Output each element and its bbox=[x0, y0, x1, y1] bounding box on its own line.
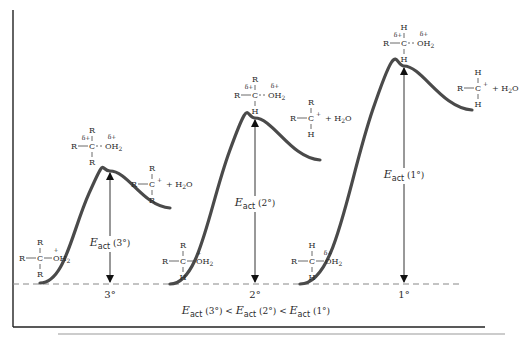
partial-charge-carbon: δ+ bbox=[394, 31, 403, 38]
energy-diagram: Eact (3°)3°CRRROH2+CRRROH2δ+δ+CRRR++ H2O… bbox=[0, 0, 519, 343]
reactant-top-substituent: R bbox=[37, 238, 44, 247]
transition-state-carbon: C bbox=[252, 91, 258, 100]
water-leaving-group: OH2 bbox=[417, 39, 435, 49]
partial-charge-oxygen: δ+ bbox=[271, 82, 280, 89]
water-leaving-group: OH2 bbox=[53, 254, 71, 264]
reactant-left-substituent: R bbox=[19, 254, 26, 263]
substrate-class-label: 3° bbox=[104, 289, 115, 300]
product-carbon: C bbox=[475, 84, 481, 93]
product-carbon: C bbox=[149, 180, 155, 189]
partial-charge-carbon: δ+ bbox=[245, 83, 254, 90]
substrate-class-label: 2° bbox=[249, 289, 260, 300]
reactant-bottom-substituent: H bbox=[180, 273, 187, 282]
oxonium-charge: δ+ bbox=[324, 249, 333, 256]
product-top-substituent: H bbox=[475, 68, 482, 77]
product-left-substituent: R bbox=[131, 180, 138, 189]
substrate-class-label: 1° bbox=[398, 289, 409, 300]
profile-tertiary: Eact (3°)3°CRRROH2+CRRROH2δ+δ+CRRR++ H2O bbox=[19, 126, 193, 300]
carbocation-product-structure: CRHR++ H2O bbox=[290, 98, 352, 139]
reactant-carbon: C bbox=[180, 257, 186, 266]
transition-state-structure: CRRROH2δ+δ+ bbox=[71, 126, 123, 167]
profile-primary: Eact (1°)1°CHHROH2δ+CHHROH2δ+δ+CHHR++ H2… bbox=[291, 23, 519, 300]
transition-state-bottom-substituent: H bbox=[401, 55, 408, 64]
arrow-head-down-icon bbox=[251, 275, 259, 283]
oxonium-charge: + bbox=[53, 246, 58, 253]
energy-profiles: Eact (3°)3°CRRROH2+CRRROH2δ+δ+CRRR++ H2O… bbox=[19, 23, 519, 300]
activation-energy-comparison: Eact (3°) < Eact (2°) < Eact (1°) bbox=[181, 304, 330, 319]
transition-state-left-substituent: R bbox=[234, 91, 241, 100]
transition-state-left-substituent: R bbox=[383, 39, 390, 48]
reactant-top-substituent: R bbox=[180, 241, 187, 250]
carbocation-charge: + bbox=[316, 110, 321, 117]
plus-water-label: + H2O bbox=[325, 114, 352, 124]
arrow-head-up-icon bbox=[106, 172, 114, 180]
partial-charge-oxygen: δ+ bbox=[108, 133, 117, 140]
reactant-carbon: C bbox=[37, 254, 43, 263]
transition-state-structure: CHHROH2δ+δ+ bbox=[383, 23, 435, 64]
product-carbon: C bbox=[308, 114, 314, 123]
water-leaving-group: OH2 bbox=[325, 257, 343, 267]
product-top-substituent: R bbox=[308, 98, 315, 107]
product-top-substituent: R bbox=[149, 164, 156, 173]
product-left-substituent: R bbox=[457, 84, 464, 93]
water-leaving-group: OH2 bbox=[196, 257, 214, 267]
product-left-substituent: R bbox=[290, 114, 297, 123]
reactant-left-substituent: R bbox=[291, 257, 298, 266]
partial-charge-oxygen: δ+ bbox=[420, 30, 429, 37]
product-bottom-substituent: H bbox=[308, 130, 315, 139]
reactant-top-substituent: H bbox=[309, 241, 316, 250]
plus-water-label: + H2O bbox=[166, 180, 193, 190]
reactant-left-substituent: R bbox=[162, 257, 169, 266]
transition-state-carbon: C bbox=[89, 142, 95, 151]
water-leaving-group: OH2 bbox=[268, 91, 286, 101]
oxonium-charge: + bbox=[196, 249, 201, 256]
reactant-bottom-substituent: H bbox=[309, 273, 316, 282]
plus-water-label: + H2O bbox=[492, 84, 519, 94]
partial-charge-carbon: δ+ bbox=[82, 134, 91, 141]
carbocation-charge: + bbox=[157, 176, 162, 183]
arrow-head-down-icon bbox=[400, 275, 408, 283]
reactant-bottom-substituent: R bbox=[37, 270, 44, 279]
product-bottom-substituent: R bbox=[149, 196, 156, 205]
transition-state-structure: CRHROH2δ+δ+ bbox=[234, 75, 286, 116]
water-leaving-group: OH2 bbox=[105, 142, 123, 152]
transition-state-bottom-substituent: R bbox=[89, 158, 96, 167]
transition-state-left-substituent: R bbox=[71, 142, 78, 151]
reactant-carbon: C bbox=[309, 257, 315, 266]
product-bottom-substituent: H bbox=[475, 100, 482, 109]
transition-state-carbon: C bbox=[401, 39, 407, 48]
arrow-head-up-icon bbox=[251, 119, 259, 127]
reactant-structure: CRHROH2+ bbox=[162, 241, 214, 282]
carbocation-charge: + bbox=[483, 80, 488, 87]
transition-state-bottom-substituent: H bbox=[252, 107, 259, 116]
arrow-head-up-icon bbox=[400, 67, 408, 75]
carbocation-product-structure: CRRR++ H2O bbox=[131, 164, 193, 205]
energy-diagram-canvas: Eact (3°)3°CRRROH2+CRRROH2δ+δ+CRRR++ H2O… bbox=[0, 0, 519, 343]
reactant-structure: CRRROH2+ bbox=[19, 238, 71, 279]
arrow-head-down-icon bbox=[106, 275, 114, 283]
carbocation-product-structure: CHHR++ H2O bbox=[457, 68, 519, 109]
